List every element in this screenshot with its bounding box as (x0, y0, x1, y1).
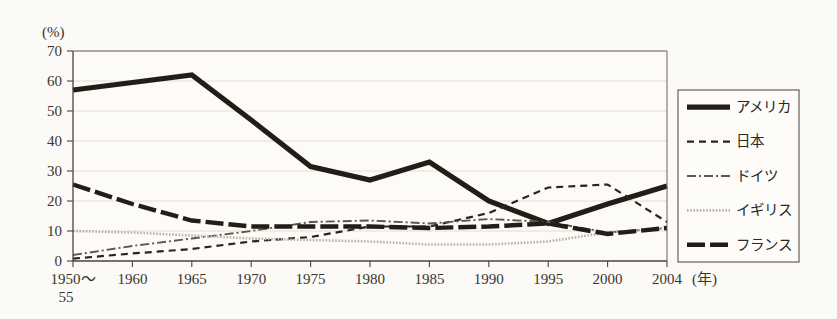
ytick-label-50: 50 (47, 103, 62, 119)
xtick-label-10: 2004 (652, 271, 683, 287)
y-axis-unit-label: (%) (42, 24, 65, 41)
ytick-label-0: 0 (55, 253, 63, 269)
xtick-label-8: 1995 (533, 271, 563, 287)
legend-label-2: ドイツ (736, 168, 778, 184)
line-chart: 0102030405060701950～19601965197019751980… (0, 0, 837, 319)
chart-legend: アメリカ日本ドイツイギリスフランス (678, 90, 799, 262)
xtick-label-2: 1965 (177, 271, 207, 287)
chart-page: 0102030405060701950～19601965197019751980… (0, 0, 837, 319)
xtick-label-0: 1950～ (51, 271, 96, 287)
xtick-label-6: 1985 (414, 271, 444, 287)
xtick-label-1: 1960 (117, 271, 147, 287)
xtick-label-4: 1975 (296, 271, 326, 287)
legend-label-0: アメリカ (736, 99, 791, 115)
legend-label-4: フランス (736, 237, 792, 253)
xtick-label-0-sub: 55 (59, 289, 74, 305)
x-axis-unit-label: (年) (692, 271, 717, 288)
xtick-label-9: 2000 (593, 271, 623, 287)
xtick-label-5: 1980 (355, 271, 385, 287)
xtick-label-7: 1990 (474, 271, 504, 287)
ytick-label-30: 30 (47, 163, 62, 179)
xtick-label-3: 1970 (236, 271, 266, 287)
ytick-label-20: 20 (47, 193, 62, 209)
ytick-label-10: 10 (47, 223, 62, 239)
ytick-label-40: 40 (47, 133, 62, 149)
ytick-label-60: 60 (47, 73, 62, 89)
legend-label-1: 日本 (736, 133, 764, 149)
legend-label-3: イギリス (736, 202, 792, 218)
ytick-label-70: 70 (47, 43, 62, 59)
